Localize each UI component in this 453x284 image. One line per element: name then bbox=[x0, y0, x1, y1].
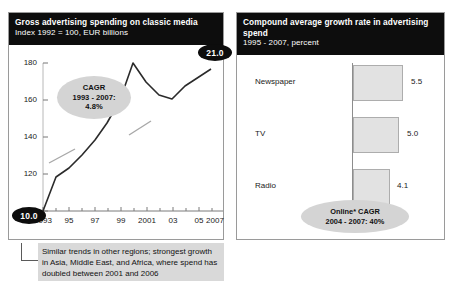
x-tick-label-95: 95 bbox=[59, 216, 79, 225]
left-chart-panel: Gross advertising spending on classic me… bbox=[8, 12, 224, 240]
bar-category-tv: TV bbox=[255, 129, 265, 138]
bar-value-newspaper: 5.5 bbox=[411, 77, 422, 86]
x-tick-marks bbox=[43, 207, 212, 211]
bar-value-radio: 4.1 bbox=[397, 181, 408, 190]
bar-newspaper bbox=[353, 65, 403, 101]
x-tick-label-03: 03 bbox=[163, 216, 183, 225]
right-panel-subtitle: 1995 - 2007, percent bbox=[243, 38, 438, 49]
online-callout-line1: Online* CAGR bbox=[330, 207, 380, 217]
caption-bracket bbox=[21, 243, 39, 261]
cagr-leader-upper bbox=[129, 121, 151, 135]
left-panel-header: Gross advertising spending on classic me… bbox=[9, 13, 223, 45]
y-tick-label-140: 140 bbox=[15, 132, 37, 141]
end-value-pill: 21.0 bbox=[198, 44, 232, 61]
x-tick-label-2007: 2007 bbox=[201, 216, 229, 225]
y-tick-label-160: 160 bbox=[15, 95, 37, 104]
y-tick-label-180: 180 bbox=[15, 58, 37, 67]
left-panel-title: Gross advertising spending on classic me… bbox=[15, 17, 217, 28]
bar-value-tv: 5.0 bbox=[407, 129, 418, 138]
bar-tv bbox=[353, 117, 399, 153]
left-panel-subtitle: Index 1992 = 100, EUR billions bbox=[15, 28, 217, 39]
caption-box: Similar trends in other regions; stronge… bbox=[38, 243, 224, 281]
cagr-callout-line3: 4.8% bbox=[85, 102, 102, 112]
x-tick-label-97: 97 bbox=[85, 216, 105, 225]
y-tick-label-120: 120 bbox=[15, 169, 37, 178]
cagr-callout-line2: 1993 - 2007: bbox=[72, 93, 115, 103]
bar-row-tv: TV 5.0 bbox=[237, 115, 444, 167]
bar-category-newspaper: Newspaper bbox=[255, 77, 295, 86]
x-tick-label-2001: 2001 bbox=[133, 216, 161, 225]
start-value-pill: 10.0 bbox=[12, 207, 46, 224]
right-panel-title: Compound average growth rate in advertis… bbox=[243, 17, 438, 38]
cagr-callout-oval: CAGR 1993 - 2007: 4.8% bbox=[57, 76, 131, 119]
bar-row-newspaper: Newspaper 5.5 bbox=[237, 63, 444, 115]
online-callout-line2: 2004 - 2007: 40% bbox=[326, 217, 385, 227]
right-panel-header: Compound average growth rate in advertis… bbox=[237, 13, 444, 55]
bar-category-radio: Radio bbox=[255, 181, 276, 190]
cagr-callout-line1: CAGR bbox=[83, 83, 105, 93]
x-tick-label-99: 99 bbox=[111, 216, 131, 225]
online-cagr-callout-oval: Online* CAGR 2004 - 2007: 40% bbox=[301, 200, 409, 233]
cagr-leader-lower bbox=[49, 149, 75, 163]
